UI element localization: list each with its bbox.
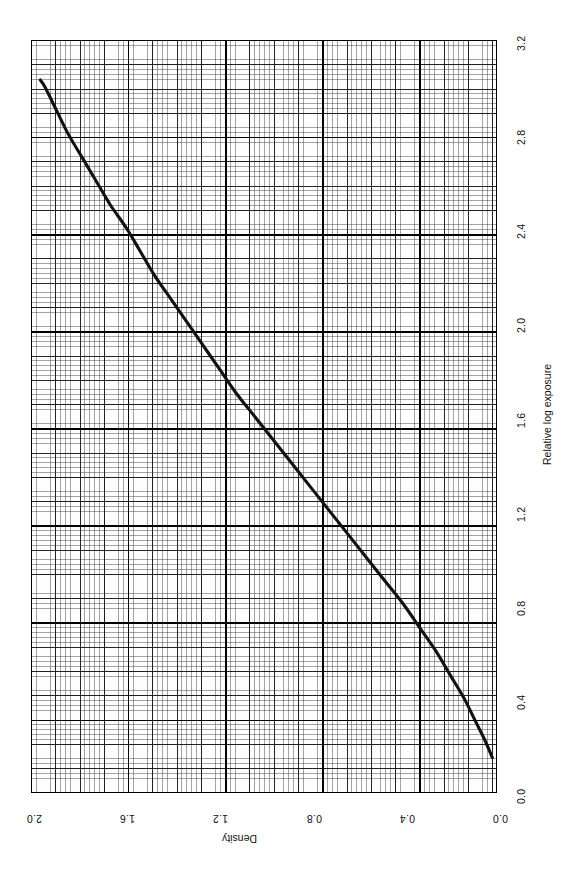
exposure-axis-title: Relative log exposure (541, 364, 553, 465)
figure-canvas: 0.00.40.81.21.62.02.42.83.2 Relative log… (0, 0, 561, 881)
exposure-tick-label: 1.6 (515, 412, 527, 427)
exposure-tick-label: 0.0 (515, 789, 527, 804)
density-axis-title: Density (222, 833, 257, 845)
exposure-tick-label: 1.2 (515, 506, 527, 521)
density-tick-label: 0.4 (400, 813, 415, 825)
exposure-tick-label: 2.0 (515, 318, 527, 333)
density-tick-label: 1.2 (213, 813, 228, 825)
exposure-tick-label: 0.8 (515, 601, 527, 616)
characteristic-curve (31, 40, 497, 793)
density-tick-label: 1.6 (120, 813, 135, 825)
exposure-tick-label: 2.4 (515, 224, 527, 239)
density-tick-label: 0.0 (493, 813, 508, 825)
density-tick-label: 0.8 (306, 813, 321, 825)
exposure-tick-label: 3.2 (515, 36, 527, 51)
exposure-tick-label: 0.4 (515, 695, 527, 710)
exposure-tick-label: 2.8 (515, 130, 527, 145)
density-tick-label: 2.0 (27, 813, 42, 825)
plot-area (31, 40, 497, 793)
